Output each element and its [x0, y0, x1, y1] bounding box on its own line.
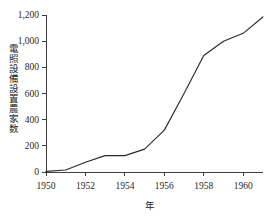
chart-figure: 0 200 400 600 800 1,000 1,200 1950 1952 … — [0, 0, 272, 217]
y-tick-label: 800 — [25, 62, 40, 72]
x-tick-label: 1958 — [194, 181, 213, 191]
x-tick-label: 1952 — [76, 181, 95, 191]
y-axis-title-char: 数 — [9, 124, 19, 134]
y-tick-label: 600 — [25, 89, 40, 99]
x-axis-title: 年 — [145, 200, 155, 211]
y-tick-label: 400 — [25, 115, 40, 125]
x-tick-label: 1960 — [234, 181, 253, 191]
y-tick-label: 1,000 — [18, 36, 40, 46]
x-tick-label: 1950 — [37, 181, 56, 191]
x-tick-label: 1954 — [115, 181, 134, 191]
y-tick-label: 0 — [34, 167, 39, 177]
y-tick-label: 200 — [25, 141, 40, 151]
line-chart: 0 200 400 600 800 1,000 1,200 1950 1952 … — [0, 0, 272, 217]
y-tick-label: 1,200 — [18, 10, 40, 20]
y-axis-title: 電照設備設置農家数 — [7, 44, 20, 134]
x-tick-label: 1956 — [155, 181, 174, 191]
